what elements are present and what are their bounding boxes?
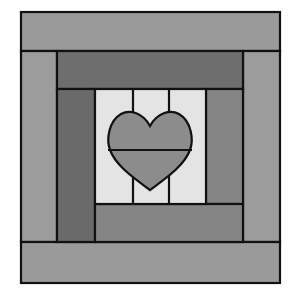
outer-top-band: [21, 12, 280, 51]
outer-bottom-band: [21, 242, 280, 283]
outer-left-strip: [21, 51, 57, 242]
inner-left-strip: [57, 89, 95, 242]
outer-right-strip: [243, 51, 280, 242]
inner-right-strip: [206, 89, 243, 204]
quilt-block-diagram: [0, 0, 300, 303]
inner-bottom-band: [95, 204, 243, 242]
inner-top-band: [57, 51, 243, 89]
